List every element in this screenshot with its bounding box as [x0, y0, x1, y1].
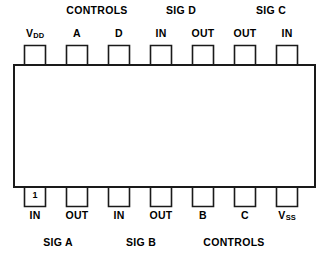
pin-label-subscript: SS: [286, 213, 296, 222]
pin-label-bottom-4: OUT: [149, 209, 172, 221]
pin-shape-bottom-2: [67, 187, 88, 207]
pin-shape-top-4: [151, 46, 172, 66]
bottom-pin-shapes: [25, 187, 298, 207]
group-label-bottom-controls: CONTROLS: [203, 236, 264, 248]
pin-shape-top-1: [25, 46, 46, 66]
pin-label-bottom-1: IN: [29, 209, 40, 221]
group-label-top-controls: CONTROLS: [66, 4, 127, 16]
group-label-bottom-sig-b: SIG B: [126, 236, 156, 248]
pin-shape-bottom-5: [193, 187, 214, 207]
pin-label-text: IN: [29, 209, 40, 221]
pin-number-marker: 1: [32, 190, 37, 200]
pin-label-text: OUT: [65, 209, 88, 221]
pin-label-bottom-7: VSS: [278, 209, 295, 221]
pin-shape-bottom-4: [151, 187, 172, 207]
pin-label-text: OUT: [191, 27, 214, 39]
pin-label-text: B: [199, 209, 207, 221]
pin-label-top-2: A: [73, 27, 81, 39]
pin-label-bottom-2: OUT: [65, 209, 88, 221]
group-label-bottom-sig-a: SIG A: [43, 236, 73, 248]
pin-label-text: IN: [113, 209, 124, 221]
pin-label-text: OUT: [233, 27, 256, 39]
pin-shape-top-2: [67, 46, 88, 66]
pin-label-text: D: [115, 27, 123, 39]
pin-label-text: C: [241, 209, 249, 221]
pin-shape-top-3: [109, 46, 130, 66]
group-label-top-sig-d: SIG D: [166, 4, 196, 16]
group-label-top-sig-c: SIG C: [256, 4, 286, 16]
pin-shape-top-6: [235, 46, 256, 66]
pin-label-top-5: OUT: [191, 27, 214, 39]
ic-pinout-diagram: CONTROLS SIG D SIG C VDD A D IN OUT OUT …: [0, 0, 320, 254]
pin-shape-top-5: [193, 46, 214, 66]
pin-label-text: IN: [281, 27, 292, 39]
pin-label-top-7: IN: [281, 27, 292, 39]
pin-label-text: IN: [155, 27, 166, 39]
pin-label-text: A: [73, 27, 81, 39]
pin-label-top-6: OUT: [233, 27, 256, 39]
pin-label-top-3: D: [115, 27, 123, 39]
pin-label-bottom-3: IN: [113, 209, 124, 221]
pin-label-bottom-5: B: [199, 209, 207, 221]
pin-label-top-4: IN: [155, 27, 166, 39]
pin-label-top-1: VDD: [26, 27, 44, 39]
pin-shape-bottom-3: [109, 187, 130, 207]
pin-label-text: OUT: [149, 209, 172, 221]
pin-label-subscript: DD: [33, 31, 44, 40]
pin-shape-bottom-7: [277, 187, 298, 207]
pin-shape-bottom-6: [235, 187, 256, 207]
pin-shape-top-7: [277, 46, 298, 66]
top-pin-shapes: [25, 46, 298, 66]
pin-label-bottom-6: C: [241, 209, 249, 221]
package-body: [14, 65, 315, 187]
